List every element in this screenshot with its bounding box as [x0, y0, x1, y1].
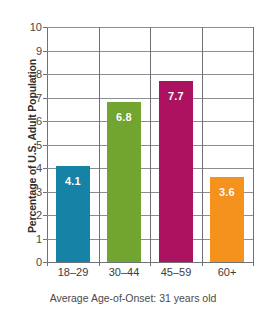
y-tick-label-5: 5 [2, 139, 42, 151]
y-tick-label-10: 10 [2, 21, 42, 33]
bar-45–59: 7.7 [159, 81, 193, 262]
bar-value-label: 7.7 [168, 90, 184, 262]
y-tick-label-9: 9 [2, 45, 42, 57]
category-separator-2 [150, 27, 151, 262]
bar-30–44: 6.8 [107, 102, 141, 262]
x-tick-label-60+: 60+ [199, 266, 255, 278]
category-separator-3 [202, 27, 203, 262]
y-tick-label-7: 7 [2, 92, 42, 104]
bar-value-label: 6.8 [116, 111, 132, 262]
category-separator-1 [99, 27, 100, 262]
y-tick-label-3: 3 [2, 186, 42, 198]
y-axis-tick-labels: 012345678910 [0, 27, 42, 262]
plot-area: 4.16.87.73.6 [47, 27, 253, 262]
x-tick-label-30–44: 30–44 [96, 266, 152, 278]
bar-18–29: 4.1 [56, 166, 90, 262]
bar-value-label: 4.1 [65, 175, 81, 262]
y-tick-label-8: 8 [2, 68, 42, 80]
y-tick-label-4: 4 [2, 162, 42, 174]
bar-value-label: 3.6 [219, 186, 235, 262]
y-tick-label-2: 2 [2, 209, 42, 221]
y-tick-label-0: 0 [2, 256, 42, 268]
y-tick-label-6: 6 [2, 115, 42, 127]
x-tick-label-18–29: 18–29 [45, 266, 101, 278]
x-tick-label-45–59: 45–59 [148, 266, 204, 278]
y-tick-label-1: 1 [2, 233, 42, 245]
bar-60+: 3.6 [210, 177, 244, 262]
bar-chart-figure: Percentage of U.S. Adult Population 0123… [0, 0, 266, 322]
x-axis-tick-labels: 18–2930–4445–5960+ [47, 266, 253, 286]
chart-caption: Average Age-of-Onset: 31 years old [0, 292, 266, 304]
category-separator-4 [253, 27, 254, 262]
